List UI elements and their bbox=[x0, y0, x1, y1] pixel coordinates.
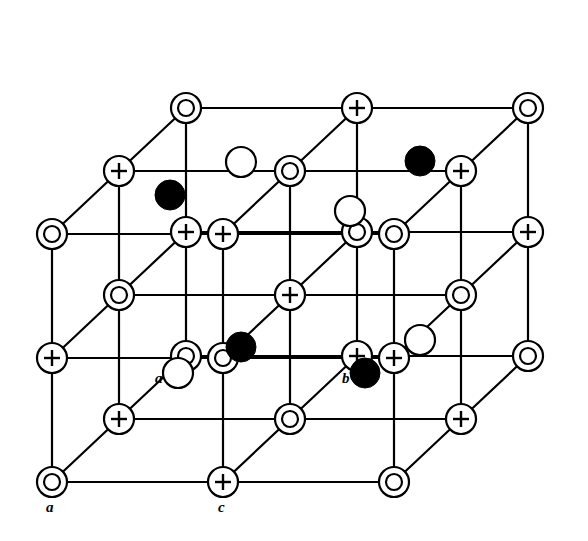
double-circle-inner bbox=[386, 474, 402, 490]
filled-circle-atom bbox=[155, 180, 185, 210]
axis-label-c: c bbox=[218, 500, 225, 515]
open-circle-atom bbox=[163, 358, 193, 388]
filled-circle-atom bbox=[405, 146, 435, 176]
filled-circle-atom bbox=[350, 358, 380, 388]
lattice-site-double-circle-site bbox=[104, 280, 134, 310]
double-circle-inner bbox=[282, 411, 298, 427]
lattice-site-double-circle-site bbox=[513, 93, 543, 123]
site-label-b: b bbox=[342, 371, 350, 386]
double-circle-inner bbox=[111, 287, 127, 303]
lattice-site-plus-circle-site bbox=[446, 156, 476, 186]
lattice-site-plus-circle-site bbox=[171, 217, 201, 247]
open-circle-atom bbox=[405, 325, 435, 355]
filled-circle-atom bbox=[226, 332, 256, 362]
lattice-site-plus-circle-site bbox=[208, 467, 238, 497]
site-label-a: a bbox=[155, 371, 163, 386]
lattice-site-group bbox=[37, 93, 543, 497]
open-circle-atom bbox=[335, 196, 365, 226]
lattice-site-plus-circle-site bbox=[37, 343, 67, 373]
double-circle-inner bbox=[44, 226, 60, 242]
open-circle-atom bbox=[226, 147, 256, 177]
axis-label-a: a bbox=[46, 500, 54, 515]
lattice-site-plus-circle-site bbox=[379, 343, 409, 373]
lattice-site-plus-circle-site bbox=[104, 404, 134, 434]
lattice-site-double-circle-site bbox=[275, 404, 305, 434]
lattice-site-double-circle-site bbox=[37, 467, 67, 497]
lattice-site-double-circle-site bbox=[171, 93, 201, 123]
double-circle-inner bbox=[386, 226, 402, 242]
lattice-site-double-circle-site bbox=[379, 467, 409, 497]
lattice-site-double-circle-site bbox=[379, 219, 409, 249]
lattice-site-plus-circle-site bbox=[513, 217, 543, 247]
double-circle-inner bbox=[44, 474, 60, 490]
lattice-site-double-circle-site bbox=[513, 341, 543, 371]
lattice-site-plus-circle-site bbox=[104, 156, 134, 186]
lattice-site-double-circle-site bbox=[446, 280, 476, 310]
lattice-site-double-circle-site bbox=[275, 156, 305, 186]
double-circle-inner bbox=[520, 348, 536, 364]
double-circle-inner bbox=[178, 100, 194, 116]
crystal-lattice-figure: a c a b bbox=[0, 0, 588, 541]
double-circle-inner bbox=[282, 163, 298, 179]
lattice-site-plus-circle-site bbox=[342, 93, 372, 123]
lattice-diagram-svg bbox=[0, 0, 588, 541]
lattice-site-plus-circle-site bbox=[208, 219, 238, 249]
lattice-site-double-circle-site bbox=[37, 219, 67, 249]
double-circle-inner bbox=[520, 100, 536, 116]
lattice-site-plus-circle-site bbox=[275, 280, 305, 310]
lattice-site-plus-circle-site bbox=[446, 404, 476, 434]
double-circle-inner bbox=[453, 287, 469, 303]
